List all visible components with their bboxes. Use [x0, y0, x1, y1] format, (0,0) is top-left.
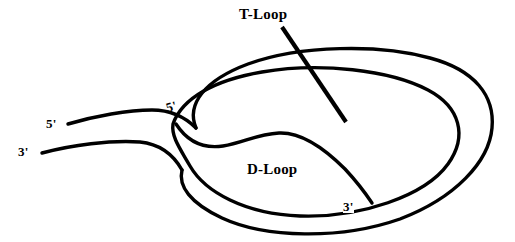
- five-prime-tail-label: 5': [46, 117, 57, 130]
- three-prime-tail-label: 3': [18, 145, 29, 158]
- three-prime-invading-label: 3': [343, 200, 354, 213]
- t-loop-label: T-Loop: [239, 7, 287, 22]
- tloop-figure: T-Loop D-Loop 5' 3' 5' 3': [0, 0, 515, 242]
- tloop-diagram: [0, 0, 515, 242]
- d-loop-label: D-Loop: [247, 162, 297, 177]
